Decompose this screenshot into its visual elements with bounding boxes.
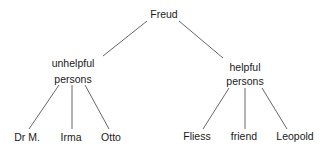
edge-root-left: [103, 21, 147, 56]
branch-unhelpful-line1: unhelpful: [52, 57, 95, 69]
leaf-fliess: Fliess: [183, 130, 210, 142]
edge-root-right: [179, 21, 223, 58]
edge-right-leopold: [262, 88, 287, 129]
edge-left-otto: [85, 85, 109, 129]
branch-helpful-line2: persons: [226, 75, 263, 87]
root-node: Freud: [150, 8, 177, 20]
leaf-dr-m: Dr M.: [14, 131, 40, 143]
leaf-irma: Irma: [61, 131, 82, 143]
leaf-leopold: Leopold: [276, 130, 313, 142]
tree-edges: [0, 0, 327, 148]
leaf-otto: Otto: [101, 131, 121, 143]
leaf-friend: friend: [231, 130, 257, 142]
edge-right-fliess: [203, 88, 229, 129]
branch-unhelpful-line2: persons: [54, 73, 91, 85]
edge-left-drm: [29, 85, 59, 129]
branch-helpful-line1: helpful: [230, 61, 261, 73]
